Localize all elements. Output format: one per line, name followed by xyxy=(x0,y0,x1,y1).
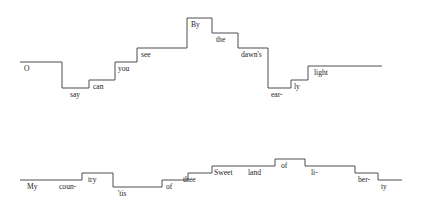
syllable-label: the xyxy=(216,35,226,44)
syllable-label: ear- xyxy=(271,90,283,99)
syllable-label: of xyxy=(281,161,288,170)
staff-lower: Mycoun-try'tisoftheeSweetlandofli-ber-ty xyxy=(20,159,402,198)
syllable-label: thee xyxy=(183,175,196,184)
syllable-label: li- xyxy=(311,168,318,177)
syllable-label: light xyxy=(314,68,329,77)
syllable-label: ly xyxy=(294,82,300,91)
syllable-label: ber- xyxy=(358,175,371,184)
syllable-label: can xyxy=(93,82,104,91)
staff-upper: OsaycanyouseeBythedawn'sear-lylight xyxy=(20,18,382,99)
staff-lower-labels: Mycoun-try'tisoftheeSweetlandofli-ber-ty xyxy=(27,161,387,198)
syllable-label: My xyxy=(27,182,38,191)
syllable-label: 'tis xyxy=(118,189,127,198)
staff-upper-contour xyxy=(20,18,382,88)
syllable-label: O xyxy=(24,64,30,73)
pitch-contour-figure: OsaycanyouseeBythedawn'sear-lylight Myco… xyxy=(0,0,422,212)
syllable-label: By xyxy=(191,20,200,29)
syllable-label: try xyxy=(88,175,97,184)
syllable-label: say xyxy=(70,90,80,99)
syllable-label: you xyxy=(118,64,130,73)
syllable-label: Sweet xyxy=(214,168,233,177)
staff-upper-labels: OsaycanyouseeBythedawn'sear-lylight xyxy=(24,20,329,99)
syllable-label: see xyxy=(141,50,151,59)
syllable-label: ty xyxy=(381,182,387,191)
staff-lower-contour xyxy=(20,159,402,187)
syllable-label: dawn's xyxy=(241,50,262,59)
syllable-label: of xyxy=(166,182,173,191)
syllable-label: land xyxy=(248,168,261,177)
syllable-label: coun- xyxy=(59,182,77,191)
